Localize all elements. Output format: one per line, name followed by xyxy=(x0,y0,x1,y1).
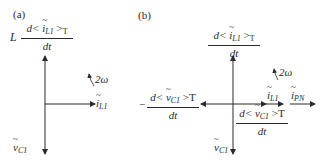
d-operator: d< xyxy=(26,22,39,34)
panel-b-ipn-label: iPN xyxy=(291,90,304,103)
v-symbol: v xyxy=(166,92,171,103)
subscript-C1: C1 xyxy=(219,146,228,155)
panel-a-2omega-label: 2ω xyxy=(95,74,108,85)
panel-b-label: (b) xyxy=(138,10,151,21)
gt-T-symbol: >T xyxy=(183,91,196,103)
gt-T-symbol: >T xyxy=(272,107,285,119)
subscript-T: T xyxy=(63,27,68,36)
panel-b-rotation-arrow-icon xyxy=(274,69,278,80)
v-symbol: v xyxy=(13,142,18,153)
panel-a-L-prefix: L xyxy=(10,31,17,43)
panel-a-top-fraction: d< iL1 >T dt xyxy=(21,23,73,52)
dt-denominator: dt xyxy=(147,108,199,121)
subscript-PN: PN xyxy=(294,94,304,103)
panel-b-left-fraction: d< vC1 >T dt xyxy=(147,92,199,121)
dt-denominator: dt xyxy=(208,46,260,59)
v-symbol: v xyxy=(255,108,260,119)
subscript-C1: C1 xyxy=(260,112,269,121)
subscript-T: T xyxy=(250,34,255,43)
panel-b-lower-fraction: d< vC1 >T dt xyxy=(236,108,288,137)
dt-denominator: dt xyxy=(236,124,288,137)
subscript-C1: C1 xyxy=(18,146,27,155)
i-symbol: i xyxy=(291,90,294,101)
i-symbol: i xyxy=(42,23,45,34)
v-symbol: v xyxy=(214,142,219,153)
i-symbol: i xyxy=(229,30,232,41)
subscript-L1: L1 xyxy=(270,94,278,103)
subscript-L1: L1 xyxy=(99,102,107,111)
d-operator: d< xyxy=(239,107,252,119)
d-operator: d< xyxy=(213,29,226,41)
panel-b-2omega-label: 2ω xyxy=(279,67,292,78)
panel-a-axes xyxy=(45,56,95,154)
panel-a-label: (a) xyxy=(13,9,25,20)
d-operator: d< xyxy=(150,91,163,103)
i-symbol: i xyxy=(267,90,270,101)
panel-b-top-fraction: d< iL1 >T dt xyxy=(208,30,260,59)
dt-denominator: dt xyxy=(21,39,73,52)
subscript-L1: L1 xyxy=(45,27,53,36)
panel-b-minus-sign: − xyxy=(139,99,145,110)
panel-b-il1-label: iL1 xyxy=(267,90,279,103)
panel-a-il1-label: iL1 xyxy=(96,98,108,111)
panel-a-vc1-label: vC1 xyxy=(13,142,27,155)
subscript-L1: L1 xyxy=(232,34,240,43)
i-symbol: i xyxy=(96,98,99,109)
panel-a-rotation-arrow-icon xyxy=(89,74,94,86)
subscript-C1: C1 xyxy=(171,96,180,105)
panel-b-vc1-label: vC1 xyxy=(214,142,228,155)
